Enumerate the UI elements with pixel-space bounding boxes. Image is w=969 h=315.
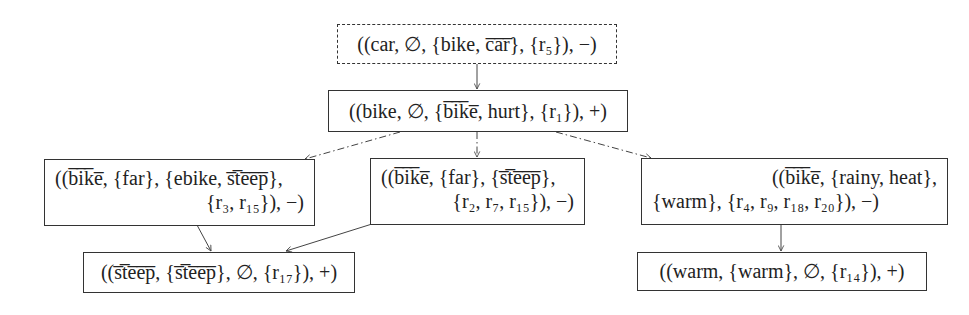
edge-n1-n4 [556, 132, 651, 158]
node-label: ((warm, {warm}, ∅, {r₁₄}), +) [644, 259, 920, 283]
node-label-line-2: {r₂, r₇, r₁₅}), −) [381, 189, 574, 213]
edge-n2-n5 [197, 225, 211, 251]
node-notbike-rainy-heat: ((b̅i̅k̅e̅, {rainy, heat}, {warm}, {r₄, … [641, 158, 948, 225]
node-label: ((car, ∅, {bike, c̅a̅r̅}, {r₅}), −) [344, 32, 610, 56]
node-notsteep-positive: ((s̅t̅e̅e̅p̅, {s̅t̅e̅e̅p̅}, ∅, {r₁₇}), +… [83, 252, 355, 293]
node-label: ((bike, ∅, {b̅i̅k̅e̅, hurt}, {r₁}), +) [335, 99, 621, 123]
edge-n3-n5 [286, 224, 372, 251]
node-bike-positive: ((bike, ∅, {b̅i̅k̅e̅, hurt}, {r₁}), +) [328, 90, 628, 132]
node-label-line-1: ((b̅i̅k̅e̅, {far}, {ebike, s̅t̅e̅e̅p̅}, [55, 166, 304, 190]
node-label-line-2: {r₃, r₁₅}), −) [55, 190, 304, 214]
edge-n1-n2 [305, 132, 400, 159]
node-notbike-ebike: ((b̅i̅k̅e̅, {far}, {ebike, s̅t̅e̅e̅p̅}, … [44, 159, 315, 226]
node-warm-positive: ((warm, {warm}, ∅, {r₁₄}), +) [637, 252, 927, 291]
node-label-line-1: ((b̅i̅k̅e̅, {rainy, heat}, [652, 165, 937, 189]
node-label-line-2: {warm}, {r₄, r₉, r₁₈, r₂₀}), −) [652, 189, 937, 213]
node-label: ((s̅t̅e̅e̅p̅, {s̅t̅e̅e̅p̅}, ∅, {r₁₇}), +… [90, 260, 348, 284]
node-label-line-1: ((b̅i̅k̅e̅, {far}, {s̅t̅e̅e̅p̅}, [381, 165, 574, 189]
node-notbike-steep: ((b̅i̅k̅e̅, {far}, {s̅t̅e̅e̅p̅}, {r₂, r₇… [370, 158, 585, 225]
node-car-root: ((car, ∅, {bike, c̅a̅r̅}, {r₅}), −) [337, 24, 617, 64]
